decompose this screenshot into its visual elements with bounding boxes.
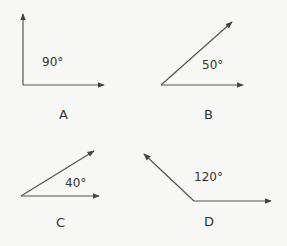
- angle-b: [161, 22, 243, 85]
- angle-d-measure: 120°: [194, 171, 223, 183]
- angle-c-measure: 40°: [65, 177, 86, 189]
- angles-diagram: [0, 0, 287, 246]
- angle-a: [23, 14, 104, 85]
- angle-b-letter: B: [204, 108, 213, 121]
- angle-d-letter: D: [204, 215, 214, 228]
- angle-c-letter: C: [56, 216, 65, 229]
- angle-a-letter: A: [59, 108, 68, 121]
- angle-a-measure: 90°: [42, 56, 63, 68]
- angle-b-measure: 50°: [202, 59, 223, 71]
- angle-c: [21, 151, 99, 196]
- ray-arrow-icon: [161, 22, 232, 85]
- ray-arrow-icon: [144, 154, 194, 201]
